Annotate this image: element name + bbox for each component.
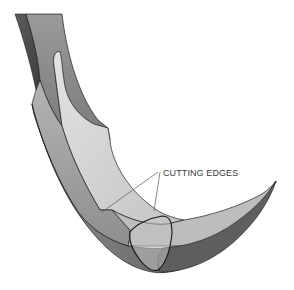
leader-line-right <box>154 172 160 211</box>
cutting-needle-illustration: CUTTING EDGES <box>0 0 294 290</box>
cutting-edges-label: CUTTING EDGES <box>163 168 238 178</box>
